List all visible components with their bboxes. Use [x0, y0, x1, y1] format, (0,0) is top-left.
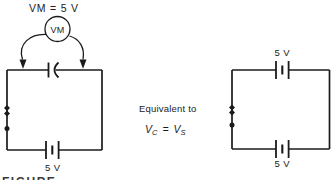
right-top-battery-label: 5 V	[275, 47, 291, 58]
battery-icon	[276, 61, 289, 79]
voltmeter-label: VM	[50, 25, 64, 35]
left-circuit: 5 V VM VM = 5 V	[4, 2, 102, 173]
junction-dot	[4, 111, 10, 117]
junction-dot	[4, 105, 10, 111]
equivalence-equation: VC=VS	[145, 123, 186, 137]
left-battery-label: 5 V	[45, 162, 61, 173]
voltmeter-icon: VM	[45, 17, 70, 42]
equation-vc-sub: C	[152, 128, 158, 137]
arrowhead-icon	[80, 60, 87, 69]
right-bottom-battery-label: 5 V	[275, 158, 291, 169]
equivalence-text: Equivalent to	[139, 103, 197, 114]
arrowhead-icon	[20, 60, 27, 69]
equation-vs-sub: S	[181, 128, 186, 137]
battery-icon	[276, 140, 289, 158]
circuit-figure: 5 V VM VM = 5 V Equivalent to VC=VS	[0, 0, 331, 180]
junction-dot	[230, 123, 235, 128]
equivalence-note: Equivalent to VC=VS	[139, 103, 197, 137]
voltmeter-lead-right	[70, 36, 84, 60]
right-circuit: 5 V 5 V	[229, 47, 329, 169]
battery-icon	[46, 141, 59, 159]
voltmeter-reading-label: VM = 5 V	[29, 2, 79, 14]
voltmeter-lead-left	[21, 34, 48, 59]
circuit-diagram-svg: 5 V VM VM = 5 V Equivalent to VC=VS	[0, 0, 331, 180]
equation-equals: =	[162, 123, 168, 135]
figure-caption: FIGURE	[2, 175, 56, 180]
junction-dot	[5, 126, 10, 131]
junction-dot	[229, 110, 235, 116]
